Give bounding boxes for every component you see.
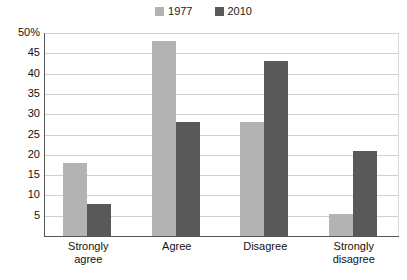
- bar-1977-strongly-agree: [63, 163, 87, 236]
- y-tick-label: 45: [0, 47, 40, 58]
- x-tick-label: Stronglydisagree: [310, 240, 399, 266]
- legend-entry-2010: 2010: [215, 6, 252, 17]
- bar-2010-strongly-agree: [87, 204, 111, 236]
- x-tick-label-line: disagree: [310, 253, 399, 266]
- y-tick-label: 35: [0, 88, 40, 99]
- x-tick-label-line: Agree: [133, 240, 222, 253]
- legend-swatch-2010-icon: [215, 7, 224, 16]
- bar-chart: 1977 2010 50%45403530252015105 Stronglya…: [0, 0, 407, 280]
- y-tick-label: 50%: [0, 27, 40, 38]
- bar-1977-agree: [152, 41, 176, 236]
- legend-label-1977: 1977: [168, 6, 192, 17]
- x-tick-label-line: agree: [44, 253, 133, 266]
- x-axis-labels: StronglyagreeAgreeDisagreeStronglydisagr…: [44, 240, 398, 280]
- x-tick-label-line: Strongly: [44, 240, 133, 253]
- chart-legend: 1977 2010: [0, 2, 407, 20]
- bar-2010-agree: [176, 122, 200, 236]
- bar-1977-strongly-disagree: [329, 214, 353, 236]
- legend-swatch-1977-icon: [155, 7, 164, 16]
- y-tick-label: 15: [0, 169, 40, 180]
- bar-2010-strongly-disagree: [353, 151, 377, 236]
- y-tick-label: 40: [0, 68, 40, 79]
- bar-1977-disagree: [240, 122, 264, 236]
- y-tick-label: 30: [0, 108, 40, 119]
- y-tick-label: 20: [0, 149, 40, 160]
- x-tick-label: Stronglyagree: [44, 240, 133, 266]
- y-tick-label: 5: [0, 210, 40, 221]
- y-tick-label: 25: [0, 129, 40, 140]
- x-tick-label: Agree: [133, 240, 222, 253]
- bar-2010-disagree: [264, 61, 288, 236]
- x-tick-label-line: Strongly: [310, 240, 399, 253]
- y-tick-label: 10: [0, 189, 40, 200]
- y-axis-labels: 50%45403530252015105: [0, 33, 40, 236]
- legend-entry-1977: 1977: [155, 6, 192, 17]
- bars-layer: [44, 33, 398, 236]
- x-tick-label: Disagree: [221, 240, 310, 253]
- x-tick-label-line: Disagree: [221, 240, 310, 253]
- legend-label-2010: 2010: [228, 6, 252, 17]
